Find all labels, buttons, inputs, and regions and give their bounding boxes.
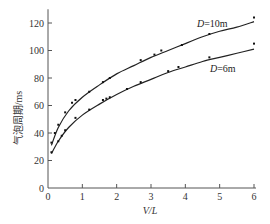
data-point bbox=[88, 109, 90, 111]
data-point bbox=[61, 135, 63, 137]
data-point bbox=[109, 96, 111, 98]
data-point bbox=[208, 56, 210, 58]
data-point bbox=[208, 33, 210, 35]
data-point bbox=[105, 98, 107, 100]
data-point bbox=[64, 111, 66, 113]
y-tick-label: 40 bbox=[34, 128, 44, 139]
axes: 0123456020406080100120 bbox=[29, 9, 257, 202]
x-tick-label: 3 bbox=[149, 191, 154, 202]
y-tick-label: 0 bbox=[39, 183, 44, 194]
data-point bbox=[177, 66, 179, 68]
x-tick-label: 2 bbox=[114, 191, 119, 202]
data-point bbox=[181, 44, 183, 46]
data-point bbox=[167, 70, 169, 72]
data-point bbox=[253, 17, 255, 19]
data-point bbox=[54, 132, 56, 134]
data-point bbox=[74, 117, 76, 119]
series-label-d6: D=6m bbox=[209, 63, 236, 74]
x-tick-label: 5 bbox=[217, 191, 222, 202]
data-point bbox=[140, 59, 142, 61]
data-point bbox=[64, 129, 66, 131]
y-tick-label: 60 bbox=[34, 100, 44, 111]
series-label-d10: D=10m bbox=[196, 18, 228, 29]
y-tick-label: 20 bbox=[34, 155, 44, 166]
fit-curve-d10 bbox=[51, 22, 254, 146]
y-tick-label: 80 bbox=[34, 73, 44, 84]
y-tick-label: 120 bbox=[29, 18, 44, 29]
x-tick-label: 0 bbox=[46, 191, 51, 202]
fit-curves bbox=[51, 22, 254, 154]
data-point bbox=[253, 43, 255, 45]
data-point bbox=[153, 54, 155, 56]
data-point bbox=[140, 81, 142, 83]
data-point bbox=[50, 142, 52, 144]
data-point bbox=[126, 88, 128, 90]
data-point bbox=[160, 50, 162, 52]
y-axis-label: 气泡周期/ms bbox=[12, 91, 24, 146]
y-tick-label: 100 bbox=[29, 45, 44, 56]
data-point bbox=[88, 91, 90, 93]
data-point bbox=[102, 81, 104, 83]
data-point bbox=[50, 151, 52, 153]
data-point bbox=[71, 102, 73, 104]
data-point bbox=[102, 99, 104, 101]
x-tick-label: 4 bbox=[183, 191, 188, 202]
data-point bbox=[57, 124, 59, 126]
data-point bbox=[57, 140, 59, 142]
x-tick-label: 1 bbox=[80, 191, 85, 202]
data-point bbox=[109, 77, 111, 79]
x-tick-label: 6 bbox=[252, 191, 257, 202]
data-point bbox=[74, 99, 76, 101]
x-axis-label: V/L bbox=[143, 205, 158, 216]
chart-canvas: 0123456020406080100120 D=10m D=6m V/L 气泡… bbox=[0, 0, 270, 224]
data-markers bbox=[50, 17, 255, 154]
